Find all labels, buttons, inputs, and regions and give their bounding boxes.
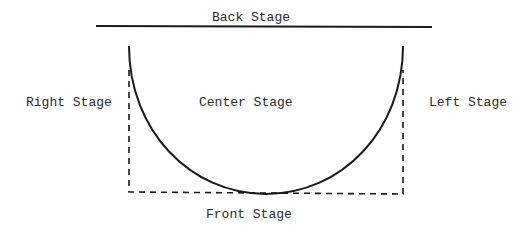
right-stage-label: Right Stage: [26, 96, 112, 109]
front-stage-label: Front Stage: [206, 208, 292, 221]
stage-diagram: [0, 0, 530, 230]
left-stage-label: Left Stage: [429, 96, 507, 109]
back-stage-line: [96, 26, 432, 27]
front-stage-dashed-outline: [129, 70, 403, 194]
center-stage-arc: [129, 46, 403, 194]
back-stage-label: Back Stage: [212, 11, 290, 24]
center-stage-label: Center Stage: [199, 96, 293, 109]
